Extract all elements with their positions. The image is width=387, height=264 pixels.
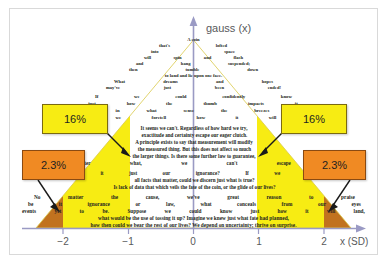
- callout-right-2-3-percent: 2.3%: [303, 150, 366, 180]
- x-tick-label-0: 0: [178, 236, 208, 247]
- figure-root: A coin that'slofted intospace willspinan…: [0, 0, 387, 264]
- x-tick-label-2: 2: [309, 236, 339, 247]
- x-axis-label: x (SD): [340, 236, 368, 247]
- y-axis-label: gauss (x): [206, 22, 251, 34]
- callout-left-2-3-percent: 2.3%: [22, 150, 85, 180]
- x-tick-label--2: −2: [48, 236, 78, 247]
- x-tick-label-1: 1: [244, 236, 274, 247]
- callout-right-16-percent: 16%: [281, 104, 347, 134]
- y-axis: [190, 16, 198, 228]
- leader-right-23: [332, 180, 350, 207]
- x-tick-label--1: −1: [113, 236, 143, 247]
- callout-left-16-percent: 16%: [42, 104, 108, 134]
- leader-left-23: [38, 180, 56, 207]
